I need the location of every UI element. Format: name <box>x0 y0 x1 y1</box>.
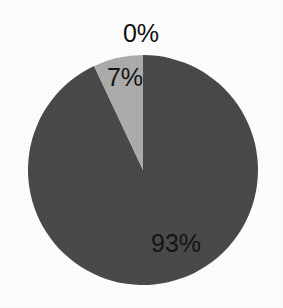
pie-label-7: 7% <box>107 65 143 90</box>
pie-label-93: 93% <box>151 231 201 256</box>
pie-label-0: 0% <box>123 21 159 46</box>
pie-chart-figure: 0% 7% 93% <box>0 0 283 308</box>
pie-slices <box>28 55 258 285</box>
